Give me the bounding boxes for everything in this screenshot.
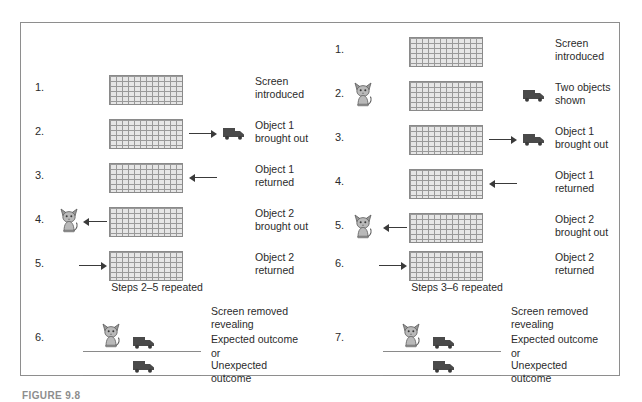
step-number: 5. — [35, 257, 57, 270]
hatched-screen-icon — [109, 163, 183, 193]
figure-caption: FIGURE 9.8 — [22, 390, 80, 401]
step-caption: Object 2 brought out — [555, 213, 625, 238]
step-number: 3. — [35, 169, 57, 182]
hatched-screen-icon — [409, 81, 483, 111]
step-caption: Object 2 returned — [255, 251, 325, 276]
arrow-right-icon — [189, 128, 217, 139]
outcome-unexpected-label: Unexpected outcome — [511, 359, 623, 384]
step-caption: Object 1 brought out — [555, 125, 625, 150]
step-row: 3. Object 1 returned — [21, 157, 321, 201]
step-row: 1. Screen introduced — [21, 69, 321, 113]
step-caption: Object 2 brought out — [255, 207, 325, 232]
hatched-screen-icon — [409, 37, 483, 67]
truck-icon — [221, 124, 247, 142]
outcome-block: 7. Screen removed revealing — [321, 305, 621, 383]
step-number: 7. — [335, 331, 344, 344]
outcome-heading: Screen removed revealing — [211, 305, 323, 330]
cat-icon — [99, 321, 123, 351]
arrow-left-icon — [383, 222, 407, 233]
outcome-expected-label: Expected outcome — [211, 333, 323, 346]
truck-icon — [131, 357, 157, 374]
figure-frame: 1. Screen introduced 2. Object 1 brought… — [20, 22, 620, 376]
step-row: 3. Object 1 brought out — [321, 119, 621, 163]
arrow-right-icon — [489, 134, 517, 145]
step-number: 2. — [35, 125, 57, 138]
step-row: 1. Screen introduced — [321, 31, 621, 75]
arrow-right-icon — [379, 260, 407, 271]
outcome-heading: Screen removed revealing — [511, 305, 623, 330]
step-caption: Object 1 returned — [255, 163, 325, 188]
outcome-expected-label: Expected outcome — [511, 333, 623, 346]
stage-line — [83, 351, 201, 352]
step-row: 4. Object 1 returned — [321, 163, 621, 207]
step-caption: Object 1 brought out — [255, 119, 325, 144]
step-number: 1. — [335, 43, 357, 56]
step-number: 6. — [35, 331, 44, 344]
hatched-screen-icon — [109, 75, 183, 105]
truck-icon — [431, 357, 457, 374]
step-caption: Screen introduced — [555, 37, 625, 62]
outcome-unexpected-label: Unexpected outcome — [211, 359, 323, 384]
outcome-or-label: or — [211, 347, 323, 360]
outcome-block: 6. Screen removed revealing — [21, 305, 321, 383]
step-number: 6. — [335, 257, 357, 270]
panel-two-object-sequence: 1. Screen introduced 2. — [321, 23, 621, 375]
step-caption: Two objects shown — [555, 81, 625, 106]
hatched-screen-icon — [409, 213, 483, 243]
truck-icon — [521, 130, 547, 148]
steps-repeated-note: Steps 3–6 repeated — [367, 281, 547, 294]
step-caption: Object 1 returned — [555, 169, 625, 194]
step-number: 4. — [335, 175, 357, 188]
stage-line — [383, 375, 501, 376]
truck-icon — [431, 333, 457, 350]
step-number: 4. — [35, 213, 57, 226]
arrow-left-icon — [83, 216, 107, 227]
step-row: 2. Object 1 brought out — [21, 113, 321, 157]
arrow-left-icon — [189, 172, 217, 183]
cat-icon — [399, 321, 423, 351]
stage-line — [383, 351, 501, 352]
step-number: 1. — [35, 81, 57, 94]
steps-repeated-note: Steps 2–5 repeated — [67, 281, 247, 294]
step-caption: Screen introduced — [255, 75, 325, 100]
step-row: 4. Object 2 brought out — [21, 201, 321, 245]
step-row: 2. — [321, 75, 621, 119]
truck-icon — [521, 86, 547, 104]
panel-one-object-sequence: 1. Screen introduced 2. Object 1 brought… — [21, 23, 321, 375]
hatched-screen-icon — [409, 125, 483, 155]
stage-line — [83, 375, 201, 376]
outcome-or-label: or — [511, 347, 623, 360]
cat-icon — [351, 212, 377, 246]
arrow-left-icon — [489, 178, 517, 189]
cat-icon — [57, 206, 83, 240]
cat-icon — [351, 80, 377, 114]
truck-icon — [131, 333, 157, 350]
hatched-screen-icon — [109, 251, 183, 281]
arrow-right-icon — [79, 260, 107, 271]
hatched-screen-icon — [409, 169, 483, 199]
step-caption: Object 2 returned — [555, 251, 625, 276]
hatched-screen-icon — [109, 119, 183, 149]
hatched-screen-icon — [409, 251, 483, 281]
hatched-screen-icon — [109, 207, 183, 237]
step-number: 3. — [335, 131, 357, 144]
